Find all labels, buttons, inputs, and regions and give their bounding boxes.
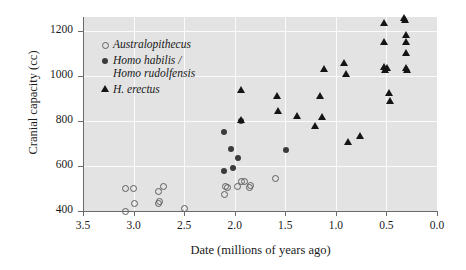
y-axis-tick-label: 400 (31, 203, 73, 215)
chart-legend: Australopithecus Homo habilis / Homo rud… (101, 38, 195, 99)
gridline-vertical (285, 17, 286, 211)
data-point (402, 49, 410, 56)
data-point (246, 184, 253, 191)
legend-item-australopithecus: Australopithecus (101, 38, 195, 51)
x-axis-tick-label: 2.0 (215, 219, 255, 231)
legend-item-h-erectus: H. erectus (101, 83, 195, 96)
data-point (316, 92, 324, 99)
gridline-horizontal (83, 31, 437, 32)
gridline-horizontal (83, 121, 437, 122)
x-axis-tick (336, 211, 337, 216)
legend-label: H. erectus (113, 83, 160, 96)
y-axis-tick (78, 121, 83, 122)
data-point (237, 116, 245, 123)
data-point (160, 183, 167, 190)
filled-triangle-marker-icon (101, 83, 113, 96)
data-point (221, 129, 227, 135)
chart-figure: Cranial capacity (cc) Date (millions of … (0, 0, 466, 270)
data-point (402, 38, 410, 45)
y-axis-tick (78, 166, 83, 167)
legend-item-homo-habilis: Homo habilis / Homo rudolfensis (101, 54, 195, 80)
data-point (403, 66, 411, 73)
x-axis-line (83, 211, 438, 212)
y-axis-tick (78, 76, 83, 77)
data-point (340, 59, 348, 66)
data-point (221, 191, 228, 198)
open-circle-marker-icon (101, 38, 113, 51)
data-point (156, 198, 163, 205)
data-point (122, 185, 129, 192)
data-point (386, 97, 394, 104)
data-point (272, 175, 279, 182)
data-point (247, 182, 254, 189)
legend-label: Homo habilis / Homo rudolfensis (113, 54, 195, 80)
data-point (274, 107, 282, 114)
data-point (224, 184, 231, 191)
data-point (221, 168, 227, 174)
y-axis-line (83, 17, 84, 212)
data-point (237, 86, 245, 93)
data-point (320, 65, 328, 72)
x-axis-tick-label: 1.0 (316, 219, 356, 231)
filled-circle-marker-icon (101, 54, 113, 67)
data-point (402, 64, 410, 71)
data-point (401, 16, 409, 23)
y-axis-tick-label: 600 (31, 158, 73, 170)
data-point (155, 188, 162, 195)
x-axis-tick (386, 211, 387, 216)
data-point (381, 66, 389, 73)
data-point (241, 178, 248, 185)
x-axis-tick (184, 211, 185, 216)
gridline-vertical (386, 17, 387, 211)
data-point (400, 14, 408, 21)
x-axis-tick (235, 211, 236, 216)
y-axis-tick-label: 800 (31, 113, 73, 125)
data-point (228, 146, 234, 152)
x-axis-tick (437, 211, 438, 216)
x-axis-tick-label: 0.0 (417, 219, 457, 231)
data-point (273, 92, 281, 99)
gridline-horizontal (83, 166, 437, 167)
data-point (155, 200, 162, 207)
data-point (131, 200, 138, 207)
x-axis-tick-label: 3.0 (114, 219, 154, 231)
gridline-vertical (336, 17, 337, 211)
x-axis-tick-label: 1.5 (265, 219, 305, 231)
data-point (293, 112, 301, 119)
x-axis-title: Date (millions of years ago) (83, 243, 438, 258)
data-point (283, 147, 289, 153)
y-axis-tick (78, 31, 83, 32)
data-point (318, 113, 326, 120)
x-axis-tick-label: 2.5 (164, 219, 204, 231)
x-axis-tick-label: 0.5 (366, 219, 406, 231)
x-axis-tick (134, 211, 135, 216)
data-point (311, 122, 319, 129)
data-point (222, 183, 229, 190)
data-point (238, 178, 245, 185)
x-axis-tick (285, 211, 286, 216)
legend-label: Australopithecus (113, 38, 191, 51)
x-axis-tick (83, 211, 84, 216)
y-axis-tick-label: 1200 (31, 23, 73, 35)
data-point (402, 31, 410, 38)
data-point (356, 132, 364, 139)
gridline-vertical (235, 17, 236, 211)
x-axis-tick-label: 3.5 (63, 219, 103, 231)
data-point (344, 138, 352, 145)
y-axis-tick-label: 1000 (31, 68, 73, 80)
